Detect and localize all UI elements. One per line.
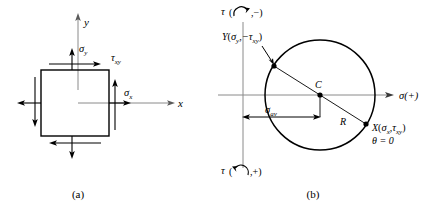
tau-left-face-arrow: [32, 77, 38, 127]
sigma-avg-label: σav: [265, 104, 278, 118]
point-x-marker: [363, 121, 368, 126]
point-y-label: Y(σy,−τxy): [222, 31, 262, 45]
sigma-avg-dimension: [242, 95, 321, 120]
stress-element-panel: y x σy σx: [17, 13, 183, 201]
mohrs-circle-panel: σ(+) C R σav τ (: [218, 6, 419, 201]
x-axis-label: x: [177, 97, 183, 109]
tau-bottom-symbol: τ: [221, 165, 226, 176]
sigma-y-arrow: [69, 48, 75, 70]
tau-right-face-arrow: [112, 79, 118, 130]
figure-container: y x σy σx: [0, 0, 433, 212]
tau-bottom-open-paren: (: [229, 166, 233, 178]
counterclockwise-arrow-icon: [232, 165, 248, 175]
tau-top-open-paren: (: [229, 7, 233, 19]
panel-a-caption: (a): [72, 188, 85, 201]
point-y-marker: [271, 63, 276, 68]
tau-xy-label: τxy: [111, 52, 122, 66]
sigma-y-label: σy: [79, 43, 88, 57]
point-x-label: X(σx,τxy): [371, 122, 406, 136]
sigma-y-arrow-lower: [69, 136, 75, 159]
tau-top-symbol: τ: [221, 6, 226, 17]
sigma-x-arrow: [109, 100, 131, 106]
tau-top-face-arrow: [49, 61, 101, 67]
panel-b-caption: (b): [307, 188, 320, 201]
tau-top-sign: ,−): [251, 7, 262, 19]
tau-bottom-sign: ,+): [250, 166, 261, 178]
radius-label: R: [339, 116, 346, 127]
tau-top-annotation: τ ( ,−): [221, 6, 262, 19]
clockwise-arrow-icon: [234, 7, 250, 16]
point-y-leader-arrow: [262, 46, 274, 65]
tau-bottom-face-arrow: [49, 140, 101, 146]
sigma-axis-label: σ(+): [399, 90, 419, 102]
theta-label: θ = 0: [372, 135, 394, 146]
tau-bottom-annotation: τ ( ,+): [221, 165, 261, 178]
sigma-x-arrow-left: [17, 100, 41, 106]
sigma-x-label: σx: [124, 87, 133, 101]
sigma-axis: [218, 92, 394, 98]
center-label: C: [315, 79, 322, 90]
y-axis-label: y: [83, 16, 89, 28]
